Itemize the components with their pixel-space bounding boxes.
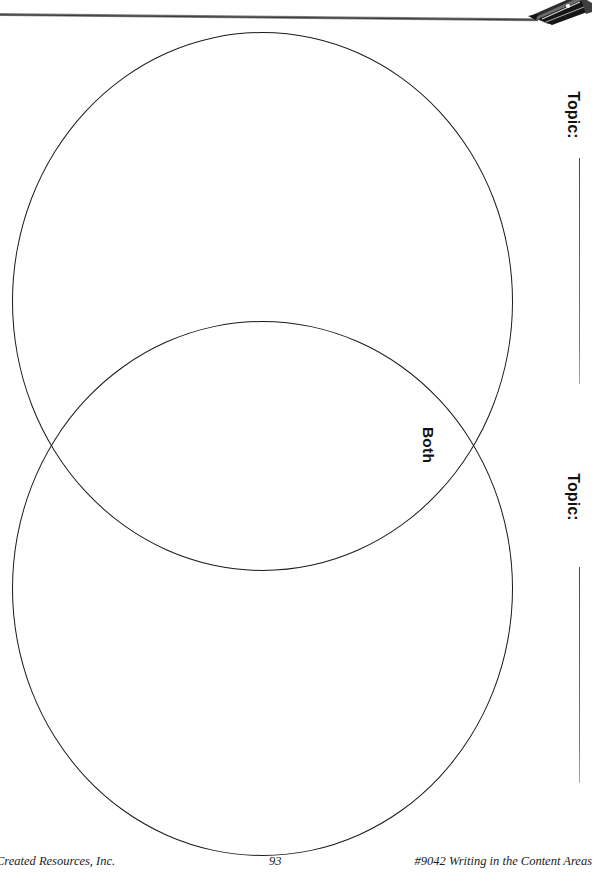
venn-overlap-label: Both — [398, 415, 458, 475]
page-footer: Created Resources, Inc. 93 #9042 Writing… — [0, 854, 594, 876]
topic-label-2: Topic: — [553, 466, 593, 538]
topic-label-2-text: Topic: — [564, 473, 582, 520]
topic-field-2[interactable]: Topic: — [540, 466, 594, 788]
topic-field-1[interactable]: Topic: — [540, 84, 594, 390]
pen-nib-icon — [522, 0, 594, 34]
footer-publisher: Created Resources, Inc. — [0, 854, 115, 869]
header-decoration — [0, 0, 594, 34]
footer-title: #9042 Writing in the Content Areas — [415, 854, 592, 869]
topic-write-line-2[interactable] — [579, 567, 581, 783]
footer-page-number: 93 — [269, 854, 282, 869]
both-label-text: Both — [419, 427, 437, 463]
worksheet-page: Both Topic: Topic: Created Resources, In… — [0, 0, 594, 884]
topic-label-1: Topic: — [553, 84, 593, 156]
topic-write-line-1[interactable] — [579, 158, 581, 384]
header-rule — [0, 13, 538, 21]
venn-circle-bottom — [12, 321, 513, 856]
topic-label-1-text: Topic: — [564, 91, 582, 138]
